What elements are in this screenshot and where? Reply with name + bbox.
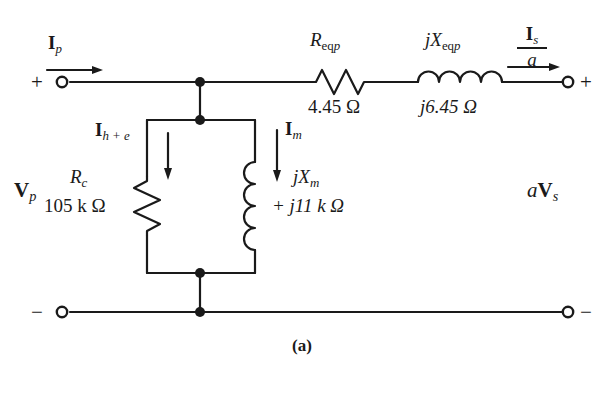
junction-dot-shunt-top xyxy=(195,115,205,125)
junction-dot-bottom-rail xyxy=(195,307,205,317)
label-rc-main: R xyxy=(70,166,82,187)
current-arrow-is-a-head xyxy=(549,63,560,71)
label-current-ihe: Ih + e xyxy=(95,120,130,143)
junction-dot-top-rail xyxy=(195,77,205,87)
label-voltage-avs-subscript: s xyxy=(553,188,559,204)
label-rc-name: Rc xyxy=(70,167,87,190)
terminal-secondary-negative xyxy=(563,307,573,317)
label-current-im-subscript: m xyxy=(292,127,301,142)
terminal-primary-negative xyxy=(57,307,67,317)
label-jxm-value-text: + j11 k Ω xyxy=(272,195,344,216)
resistor-rc-symbol xyxy=(134,176,160,236)
label-rc-sub: c xyxy=(82,175,88,190)
label-jxm-sub: m xyxy=(310,175,319,190)
label-current-ip: Ip xyxy=(48,33,62,56)
terminal-secondary-positive xyxy=(563,77,573,87)
label-voltage-avs-prefix: a xyxy=(527,178,538,202)
label-jxeq-p-value: j6.45 Ω xyxy=(420,97,477,116)
label-current-ihe-subscript: h + e xyxy=(102,128,129,143)
label-voltage-vp-subscript: p xyxy=(29,188,36,204)
label-current-is-over-a: Is a xyxy=(516,24,548,70)
label-jxm-main: jX xyxy=(293,166,310,187)
label-jxeq-p-sub2: p xyxy=(454,38,460,53)
junction-dot-shunt-bottom xyxy=(195,268,205,278)
resistor-req-p-symbol xyxy=(310,70,368,94)
label-req-p-sub: eq xyxy=(322,38,334,53)
circuit-figure: Ip + − + − Reqp 4.45 Ω jXeqp j6.45 Ω Is … xyxy=(0,0,607,406)
polarity-top-right: + xyxy=(580,72,592,93)
label-is-denominator: a xyxy=(516,49,548,70)
label-is-subscript: s xyxy=(533,32,538,47)
label-voltage-vp-symbol: V xyxy=(14,178,29,202)
polarity-bottom-left: − xyxy=(31,302,43,323)
terminal-primary-positive xyxy=(57,77,67,87)
label-is-numerator: Is xyxy=(516,24,548,47)
label-req-p-name: Reqp xyxy=(310,30,340,53)
current-arrow-ip-head xyxy=(92,66,103,74)
inductor-jxm-symbol xyxy=(244,162,255,250)
label-req-p-sub2: p xyxy=(334,38,340,53)
label-current-ip-subscript: p xyxy=(55,41,61,56)
label-voltage-vp: Vp xyxy=(14,180,36,203)
figure-caption: (a) xyxy=(292,336,312,356)
current-arrow-im-head xyxy=(273,170,281,182)
label-jxm-name: jXm xyxy=(293,167,319,190)
label-rc-value: 105 k Ω xyxy=(44,196,106,215)
label-req-p-value: 4.45 Ω xyxy=(308,97,360,116)
label-current-im: Im xyxy=(285,119,302,142)
label-jxeq-p-main: jX xyxy=(425,29,442,50)
label-jxeq-p-sub: eq xyxy=(442,38,454,53)
label-voltage-avs-symbol: V xyxy=(538,178,553,202)
inductor-jxeq-p-symbol xyxy=(418,72,502,83)
label-jxm-value: + j11 k Ω xyxy=(272,196,344,215)
label-req-p-main: R xyxy=(310,29,322,50)
label-voltage-avs: aVs xyxy=(527,180,558,203)
polarity-bottom-right: − xyxy=(580,302,592,323)
current-arrow-ihe-head xyxy=(164,168,172,180)
polarity-top-left: + xyxy=(31,72,43,93)
label-jxeq-p-name: jXeqp xyxy=(425,30,461,53)
